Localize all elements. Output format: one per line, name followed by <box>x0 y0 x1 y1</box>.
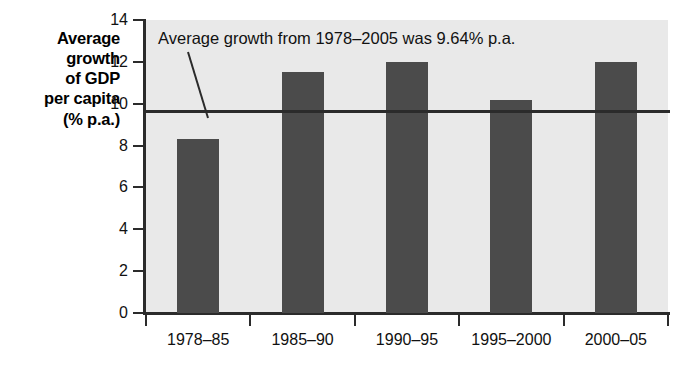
y-axis-tick-label: 12 <box>88 54 128 70</box>
y-axis-tick <box>133 61 144 63</box>
y-axis-tick <box>133 145 144 147</box>
y-axis-tick <box>133 103 144 105</box>
bar <box>282 72 324 313</box>
y-axis-tick-label: 0 <box>88 305 128 321</box>
y-axis-tick-label: 14 <box>88 12 128 28</box>
y-axis-tick-label: 6 <box>88 179 128 195</box>
x-axis-tick-label: 1978–85 <box>138 332 258 348</box>
y-axis-tick <box>133 228 144 230</box>
bar <box>490 100 532 313</box>
x-axis-tick <box>249 315 251 326</box>
y-axis-tick <box>133 312 144 314</box>
y-axis-tick-label: 2 <box>88 263 128 279</box>
x-axis-tick-label: 2000–05 <box>556 332 676 348</box>
y-axis-title-line-1: Average <box>0 28 120 48</box>
y-axis-tick <box>133 186 144 188</box>
bar <box>177 139 219 313</box>
y-axis-tick-label: 10 <box>88 96 128 112</box>
y-axis-tick-label: 8 <box>88 138 128 154</box>
x-axis-tick-label: 1985–90 <box>243 332 363 348</box>
y-axis-title: Average growth of GDP per capita (% p.a.… <box>0 28 120 129</box>
average-annotation-label: Average growth from 1978–2005 was 9.64% … <box>158 30 515 47</box>
x-axis-tick-label: 1995–2000 <box>451 332 571 348</box>
bar <box>595 62 637 313</box>
x-axis-tick <box>563 315 565 326</box>
y-axis-tick <box>133 19 144 21</box>
y-axis-tick <box>133 270 144 272</box>
y-axis-tick-label: 4 <box>88 221 128 237</box>
y-axis-title-line-3: of GDP <box>0 68 120 88</box>
bar <box>386 62 428 313</box>
x-axis-tick <box>458 315 460 326</box>
x-axis-tick-label: 1990–95 <box>347 332 467 348</box>
average-reference-line <box>146 110 670 113</box>
x-axis-tick <box>667 315 669 326</box>
bar-chart-figure: Average growth of GDP per capita (% p.a.… <box>0 0 694 374</box>
x-axis-tick <box>354 315 356 326</box>
x-axis-tick <box>145 315 147 326</box>
